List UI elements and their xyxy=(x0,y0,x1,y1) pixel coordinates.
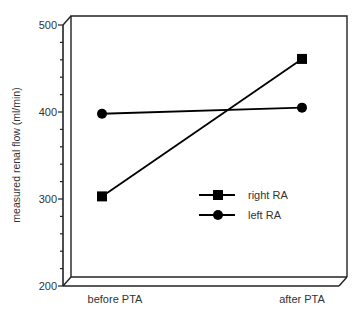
series-line-right-ra xyxy=(102,59,302,196)
legend-item-right-ra: right RA xyxy=(199,189,288,201)
y-tick-300: 300 xyxy=(39,193,57,205)
y-tick-200: 200 xyxy=(39,280,57,292)
square-marker-icon xyxy=(213,190,223,200)
y-axis-labels: 500 400 300 200 xyxy=(39,19,57,292)
legend: right RA left RA xyxy=(199,189,288,221)
chart: 500 400 300 200 measured renal flow (ml/… xyxy=(0,0,361,314)
square-marker-icon xyxy=(297,54,307,64)
y-tick-500: 500 xyxy=(39,19,57,31)
x-label-after-pta: after PTA xyxy=(279,293,325,305)
series-line-left-ra xyxy=(102,108,302,114)
y-tick-400: 400 xyxy=(39,106,57,118)
legend-label-left-ra: left RA xyxy=(248,209,282,221)
legend-item-left-ra: left RA xyxy=(199,209,282,221)
y-axis-title: measured renal flow (ml/min) xyxy=(10,87,22,222)
circle-marker-icon xyxy=(97,109,107,119)
legend-label-right-ra: right RA xyxy=(248,189,288,201)
circle-marker-icon xyxy=(213,210,223,220)
data-series xyxy=(97,54,307,201)
x-label-before-pta: before PTA xyxy=(88,293,143,305)
circle-marker-icon xyxy=(297,103,307,113)
square-marker-icon xyxy=(97,191,107,201)
